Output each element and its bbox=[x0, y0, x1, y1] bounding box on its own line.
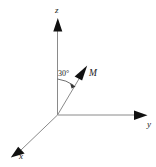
m-vector-line bbox=[58, 78, 80, 115]
z-axis-arrow-icon bbox=[53, 18, 62, 32]
z-axis-label: z bbox=[54, 5, 59, 15]
y-axis-arrow-icon bbox=[134, 110, 148, 120]
angle-label: 30° bbox=[58, 69, 69, 78]
x-axis-label: x bbox=[18, 151, 23, 161]
m-vector-label: M bbox=[88, 68, 98, 78]
m-vector-arrow-icon bbox=[75, 66, 88, 81]
figure-canvas: z y x M 30° bbox=[0, 0, 156, 167]
axes-diagram-svg: z y x M 30° bbox=[0, 0, 156, 167]
y-axis-label: y bbox=[146, 119, 151, 129]
x-axis-line bbox=[21, 115, 58, 150]
